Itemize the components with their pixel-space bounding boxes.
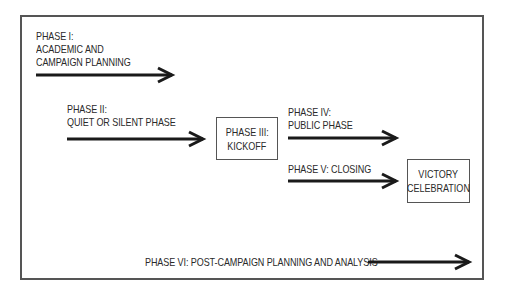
phase4-arrow-icon (288, 131, 396, 145)
phase2-arrow-icon (67, 132, 203, 146)
phase5-arrow-icon (288, 174, 396, 188)
arrows-layer (0, 0, 506, 298)
phase1-arrow-icon (36, 68, 172, 82)
phase6-arrow-icon (368, 255, 469, 269)
